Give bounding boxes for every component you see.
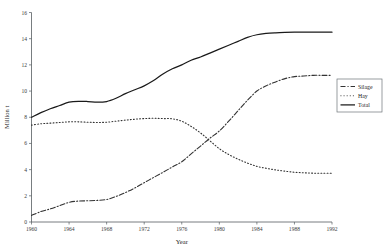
chart-legend[interactable]: SilageHayTotal <box>337 79 382 112</box>
y-tick-label: 12 <box>21 62 27 68</box>
legend-label-silage[interactable]: Silage <box>358 84 373 90</box>
x-tick-label: 1992 <box>326 226 337 232</box>
y-tick-label: 16 <box>21 10 27 16</box>
chart-figure: 0246810121416 19601964196819721976198019… <box>0 0 386 251</box>
series-line-silage <box>32 75 333 215</box>
y-tick-label: 10 <box>21 88 27 94</box>
data-series-group <box>32 32 333 215</box>
legend-label-total[interactable]: Total <box>358 102 370 108</box>
x-tick-label: 1964 <box>63 226 74 232</box>
x-axis-title: Year <box>176 238 189 245</box>
x-axis-ticks: 196019641968197219761980198419881992 <box>26 222 338 232</box>
y-axis-title: Million t <box>3 105 10 128</box>
x-tick-label: 1988 <box>289 226 300 232</box>
series-line-total <box>32 32 333 117</box>
y-tick-label: 2 <box>24 193 27 199</box>
x-tick-label: 1980 <box>214 226 225 232</box>
y-tick-label: 4 <box>24 167 27 173</box>
x-tick-label: 1960 <box>26 226 37 232</box>
y-tick-label: 0 <box>24 219 27 225</box>
y-tick-label: 8 <box>24 114 27 120</box>
x-tick-label: 1984 <box>251 226 262 232</box>
x-tick-label: 1968 <box>101 226 112 232</box>
legend-label-hay[interactable]: Hay <box>358 93 368 99</box>
y-axis-ticks: 0246810121416 <box>21 10 31 226</box>
x-tick-label: 1972 <box>139 226 150 232</box>
series-line-hay <box>32 118 333 173</box>
y-tick-label: 6 <box>24 140 27 146</box>
y-tick-label: 14 <box>21 36 27 42</box>
x-tick-label: 1976 <box>176 226 187 232</box>
line-chart-canvas: 0246810121416 19601964196819721976198019… <box>0 0 386 251</box>
